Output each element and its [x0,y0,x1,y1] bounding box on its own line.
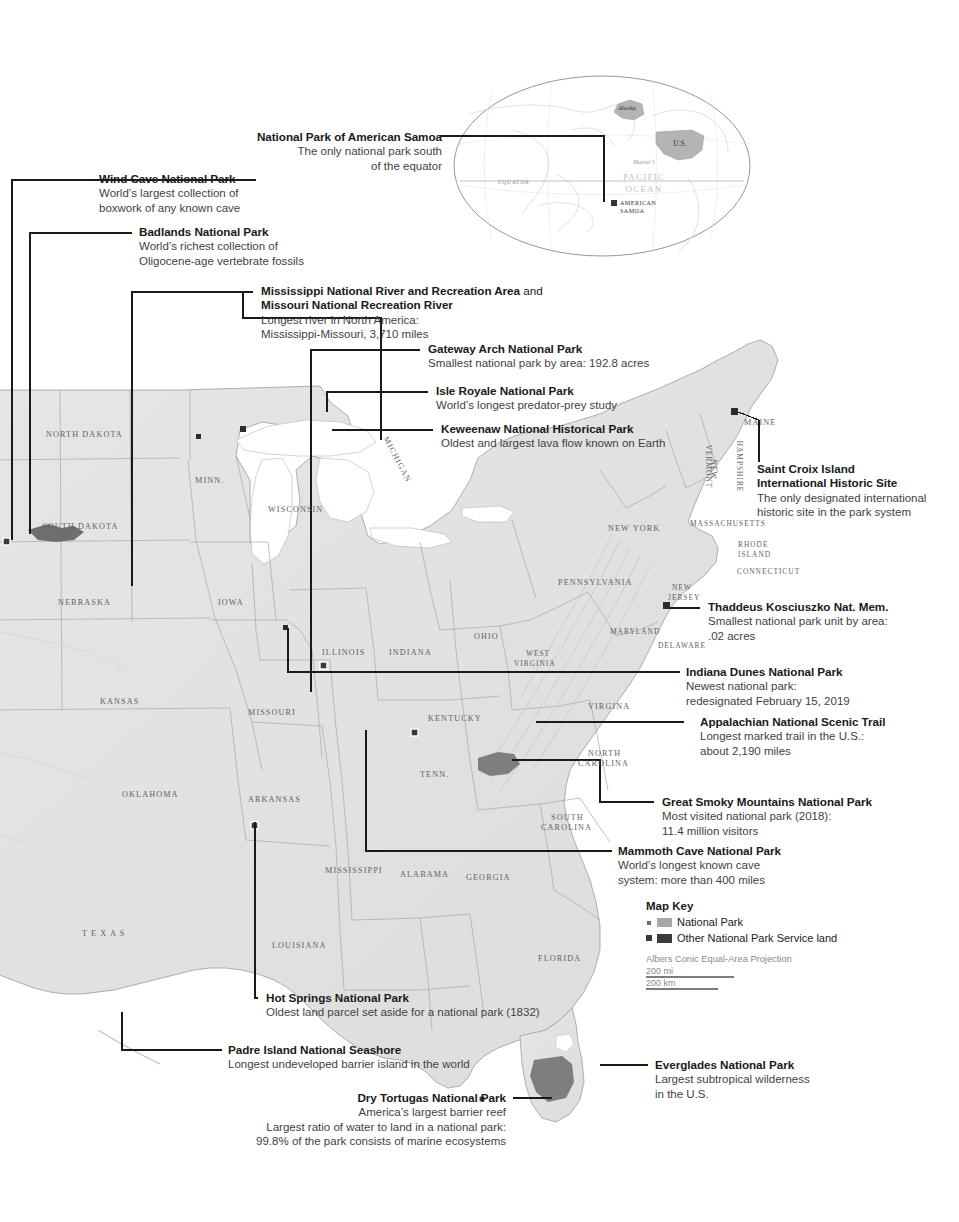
callout-title: Padre Island National Seashore [228,1043,558,1057]
state-label: KANSAS [100,697,139,706]
callout-title-main: Mississippi National River and Recreatio… [261,284,520,297]
callout-line: Most visited national park (2018): [662,809,952,823]
state-label: NEW [672,583,692,592]
callout-line: Newest national park: [686,679,951,693]
callout-indiana-dunes-national-park: Indiana Dunes National Park Newest natio… [686,665,951,708]
scale-miles-label: 200 mi [646,966,846,976]
other-nps-swatch-icon [657,934,672,943]
marker-mississippi-missouri [196,434,201,439]
callout-line: Longest marked trail in the U.S.: [700,729,955,743]
marker-keweenaw [240,426,246,432]
marker-indiana-dunes [283,625,288,630]
callout-title: Gateway Arch National Park [428,342,748,356]
callout-title: Hot Springs National Park [266,991,606,1005]
callout-everglades-national-park: Everglades National Park Largest subtrop… [655,1058,905,1101]
state-label: DELAWARE [658,641,706,650]
callout-title: Badlands National Park [139,225,399,239]
callout-wind-cave-national-park: Wind Cave National Park World’s largest … [99,172,339,215]
callout-line: system: more than 400 miles [618,873,868,887]
callout-national-park-of-american-samoa: National Park of American Samoa The only… [180,130,442,173]
state-label: LOUISIANA [272,941,326,950]
marker-wind-cave [3,538,10,545]
state-label: WISCONSIN [268,505,323,514]
callout-line: World’s richest collection of [139,239,399,253]
state-label: NEBRASKA [58,598,111,607]
inset-label-american: AMERICAN [620,199,656,206]
callout-line: redesignated February 15, 2019 [686,694,951,708]
state-label: INDIANA [389,648,432,657]
state-label: IOWA [218,598,244,607]
callout-line: Largest ratio of water to land in a nati… [148,1120,506,1134]
callout-line: Largest subtropical wilderness [655,1072,905,1086]
state-label: RHODE [738,540,768,549]
state-label: VIRGINIA [514,659,556,668]
state-label: MASSACHUSETTS [690,519,766,528]
map-key-entry-national-park: National Park [646,916,846,929]
callout-line: The only national park south [180,144,442,158]
callout-title-tail: and [520,284,543,297]
callout-title-second: Missouri National Recreation River [261,298,591,312]
scale-km-label: 200 km [646,978,846,988]
state-label: CAROLINA [578,759,629,768]
map-key-label: National Park [677,916,743,929]
inset-label-samoa: SAMOA [620,207,644,214]
callout-title: Saint Croix Island [757,462,957,476]
inset-label-us: U.S. [673,139,686,148]
callout-title: Indiana Dunes National Park [686,665,951,679]
callout-line: America’s largest barrier reef [148,1105,506,1119]
state-label: WEST [526,649,550,658]
callout-line: Oldest land parcel set aside for a natio… [266,1005,606,1019]
map-key-title: Map Key [646,900,846,912]
callout-line: Longest river in North America: [261,313,591,327]
callout-line: Oligocene-age vertebrate fossils [139,254,399,268]
callout-line: in the U.S. [655,1087,905,1101]
scale-bar-km [646,988,718,990]
marker-hot-springs [251,822,258,829]
callout-hot-springs-national-park: Hot Springs National Park Oldest land pa… [266,991,606,1020]
callout-line: 99.8% of the park consists of marine eco… [148,1134,506,1148]
inset-label-hawaii: Hawai‘i [632,158,655,165]
padre-island [98,1030,160,1064]
callout-isle-royale-national-park: Isle Royale National Park World’s longes… [436,384,736,413]
callout-title: Great Smoky Mountains National Park [662,795,952,809]
callout-saint-croix-island: Saint Croix Island International Histori… [757,462,957,520]
marker-gateway-arch [320,662,327,669]
callout-line: Mississippi-Missouri, 3,710 miles [261,327,591,341]
state-label: FLORIDA [538,954,581,963]
callout-title: Mississippi National River and Recreatio… [261,284,591,298]
state-label: NEW YORK [608,524,660,533]
state-label: NEW [709,460,718,480]
callout-line: World’s longest predator-prey study [436,398,736,412]
state-label: TENN. [420,770,449,779]
callout-line: historic site in the park system [757,505,957,519]
state-label: NORTH DAKOTA [46,430,123,439]
map-key-label: Other National Park Service land [677,932,837,945]
callout-title: Keweenaw National Historical Park [441,422,761,436]
lake-superior [236,420,376,456]
state-label: VIRGINA [588,702,630,711]
callout-line: World’s longest known cave [618,858,868,872]
state-label: JERSEY [668,593,700,602]
marker-mammoth-cave [411,729,418,736]
national-park-marker-icon [646,920,652,926]
other-nps-marker-icon [646,935,652,941]
state-label: GEORGIA [466,873,511,882]
callout-line: The only designated international [757,491,957,505]
callout-line: .02 acres [708,629,958,643]
callout-title: National Park of American Samoa [180,130,442,144]
map-key-entry-other-nps-land: Other National Park Service land [646,932,846,945]
callout-padre-island-national-seashore: Padre Island National Seashore Longest u… [228,1043,558,1072]
national-park-swatch-icon [657,918,672,927]
map-key: Map Key National Park Other National Par… [646,900,846,990]
inset-label-alaska: Alaska [617,104,636,111]
projection-label: Albers Conic Equal-Area Projection [646,954,846,965]
map-canvas: Alaska U.S. Hawai‘i PACIFIC OCEAN EQUATO… [0,0,959,1222]
state-label: PENNSYLVANIA [558,578,633,587]
callout-appalachian-trail: Appalachian National Scenic Trail Longes… [700,715,955,758]
callout-title: Dry Tortugas National Park [148,1091,506,1105]
callout-title: Isle Royale National Park [436,384,736,398]
scale-bar-group: 200 mi 200 km [646,966,846,990]
globe-outline [454,76,750,256]
state-label: ARKANSAS [248,795,301,804]
callout-line: Smallest national park unit by area: [708,614,958,628]
